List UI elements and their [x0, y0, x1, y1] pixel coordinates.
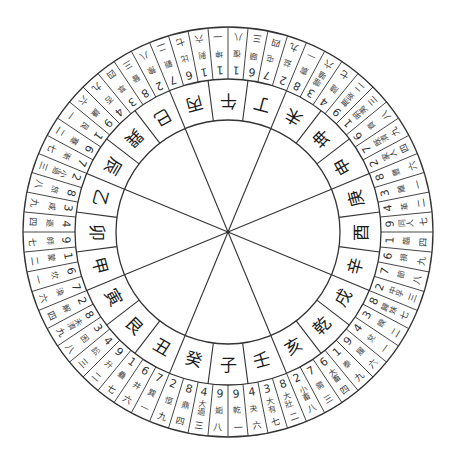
hexagram-star: 四: [419, 237, 428, 246]
hexagram-star: 一: [214, 31, 223, 40]
hexagram-star: 三: [252, 33, 262, 43]
hexagram-name: 咸: [46, 201, 55, 210]
hexagram-star: 三: [194, 421, 204, 431]
hexagram-star: 七: [419, 218, 428, 227]
hexagram-star: 六: [252, 421, 262, 431]
mountain-divider: [76, 247, 117, 252]
hexagram-divider: [208, 28, 213, 80]
hexagram-star: 四: [270, 36, 281, 47]
hexagram-number: 1: [384, 236, 395, 244]
hexagram-star: 八: [214, 423, 223, 432]
hexagram-number: 6: [382, 251, 394, 260]
hexagram-divider: [380, 247, 432, 252]
hexagram-number: 1: [216, 65, 224, 76]
hexagram-number: 9: [384, 220, 395, 228]
mountain-label: 午: [220, 91, 237, 108]
hexagram-number: 9: [61, 236, 72, 244]
hexagram-number: 9: [216, 388, 224, 399]
hexagram-star: 九: [29, 198, 39, 208]
hexagram-name: 師: [45, 237, 53, 245]
hexagram-number: 1: [232, 65, 240, 76]
mountain-divider: [339, 212, 380, 217]
hexagram-name: 復: [233, 49, 241, 57]
hexagram-name: 夬: [250, 405, 259, 414]
mountain-label: 酉: [352, 224, 369, 241]
hexagram-star: 七: [27, 237, 36, 246]
center-dot: [226, 230, 230, 234]
mountain-divider: [76, 212, 117, 217]
hexagram-name: 比: [180, 54, 190, 64]
hexagram-name: 姤: [215, 407, 223, 415]
hexagram-divider: [336, 340, 373, 377]
hexagram-name: 同人: [399, 219, 415, 228]
hexagram-divider: [83, 340, 120, 377]
hexagram-divider: [243, 384, 248, 436]
hexagram-name: 頤: [250, 50, 259, 59]
hexagram-star: 一: [32, 274, 43, 285]
hexagram-number: 9: [232, 388, 240, 399]
mountain-divider: [339, 247, 380, 252]
mountain-label: 乙: [90, 187, 111, 208]
hexagram-number: 6: [247, 66, 256, 78]
mountain-divider: [208, 80, 213, 121]
hexagram-name: 坤: [215, 49, 223, 57]
hexagram-name: 乾: [233, 407, 241, 415]
hexagram-star: 六: [194, 33, 204, 43]
mountain-divider: [243, 80, 248, 121]
hexagram-star: 九: [417, 256, 427, 266]
hexagram-name: 革: [401, 201, 410, 210]
hexagram-divider: [83, 87, 120, 124]
hexagram-name: 遯: [45, 219, 53, 227]
hexagram-name: 旅: [50, 184, 60, 194]
mountain-divider: [208, 343, 213, 384]
hexagram-star: 二: [417, 198, 427, 208]
hexagram-name: 鼎: [180, 401, 190, 411]
hexagram-name: 臨: [403, 237, 411, 245]
mountain-divider: [243, 343, 248, 384]
hexagram-name: 離: [397, 184, 407, 194]
hexagram-name: 損: [401, 254, 410, 263]
hexagram-divider: [24, 212, 76, 217]
compass-rings: [0, 0, 455, 461]
hexagram-number: 4: [247, 386, 256, 398]
hexagram-divider: [380, 212, 432, 217]
hexagram-number: 4: [61, 220, 72, 228]
hexagram-number: 1: [62, 251, 74, 260]
mountain-label: 丙: [183, 94, 204, 115]
hexagram-divider: [208, 384, 213, 436]
mountain-label: 子: [220, 356, 237, 373]
hexagram-star: 一: [233, 423, 242, 432]
hexagram-name: 蒙: [46, 254, 55, 263]
luopan-compass: 午丁未坤申庚酉辛戌乾亥壬子癸丑艮寅甲卯乙辰巽巳丙9姤八4大過三8鼎四2恒九7巽一…: [0, 0, 455, 461]
hexagram-name: 剝: [197, 50, 206, 59]
hexagram-star: 四: [27, 218, 36, 227]
hexagram-star: 八: [233, 31, 242, 40]
mountain-label: 卯: [87, 224, 104, 241]
hexagram-star: 二: [29, 256, 39, 266]
